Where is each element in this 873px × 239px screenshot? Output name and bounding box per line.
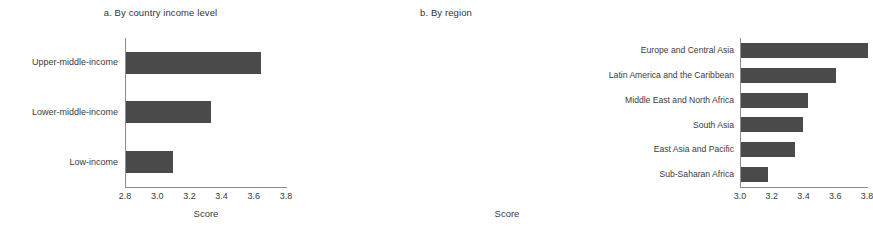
bar: [126, 151, 173, 173]
category-label: Latin America and the Caribbean: [609, 71, 734, 80]
bar: [741, 117, 803, 132]
x-tick-label: 3.8: [280, 191, 293, 201]
x-tick-label: 3.4: [797, 191, 810, 201]
bar: [126, 52, 261, 74]
bar-row: East Asia and Pacific: [741, 142, 868, 157]
x-tick-label: 3.8: [861, 191, 873, 201]
bar: [741, 167, 768, 182]
bar-row: Upper-middle-income: [126, 52, 287, 74]
x-tick-label: 2.8: [119, 191, 132, 201]
bar: [126, 101, 211, 123]
panel-a-title: a. By country income level: [0, 7, 309, 18]
category-label: South Asia: [693, 121, 734, 130]
category-label: Sub-Saharan Africa: [659, 170, 734, 179]
bar: [741, 43, 868, 58]
x-tick-label: 3.4: [215, 191, 228, 201]
x-axis-ticks-b: 3.03.23.43.63.8: [740, 188, 868, 202]
bar-row: Europe and Central Asia: [741, 43, 868, 58]
bar: [741, 142, 795, 157]
bar: [741, 68, 836, 83]
bar-row: Sub-Saharan Africa: [741, 167, 868, 182]
bar-row: South Asia: [741, 117, 868, 132]
x-tick-label: 3.0: [151, 191, 164, 201]
panel-b-title: b. By region: [297, 7, 621, 18]
category-label: Europe and Central Asia: [641, 46, 734, 55]
category-label: Upper-middle-income: [32, 58, 118, 67]
x-tick-label: 3.0: [734, 191, 747, 201]
bar-group-b: Europe and Central AsiaLatin America and…: [741, 38, 868, 187]
category-label: Middle East and North Africa: [625, 96, 734, 105]
bar-row: Low-income: [126, 151, 287, 173]
x-tick-label: 3.6: [248, 191, 261, 201]
category-label: Low-income: [69, 158, 118, 167]
x-tick-label: 3.2: [765, 191, 778, 201]
plot-area-a: Upper-middle-incomeLower-middle-incomeLo…: [125, 38, 287, 188]
chart-panel-a: a. By country income level Upper-middle-…: [0, 0, 297, 239]
category-label: East Asia and Pacific: [654, 145, 734, 154]
bar-row: Middle East and North Africa: [741, 93, 868, 108]
x-axis-title-a: Score: [194, 208, 219, 219]
category-label: Lower-middle-income: [32, 108, 118, 117]
bar-group-a: Upper-middle-incomeLower-middle-incomeLo…: [126, 38, 287, 187]
x-axis-ticks-a: 2.83.03.23.43.63.8: [125, 188, 287, 202]
x-tick-label: 3.2: [183, 191, 196, 201]
x-axis-title-b: Score: [495, 208, 520, 219]
bar-row: Latin America and the Caribbean: [741, 68, 868, 83]
bar-row: Lower-middle-income: [126, 101, 287, 123]
bar: [741, 93, 808, 108]
chart-panel-b: b. By region Europe and Central AsiaLati…: [297, 0, 595, 239]
x-tick-label: 3.6: [829, 191, 842, 201]
plot-area-b: Europe and Central AsiaLatin America and…: [740, 38, 868, 188]
